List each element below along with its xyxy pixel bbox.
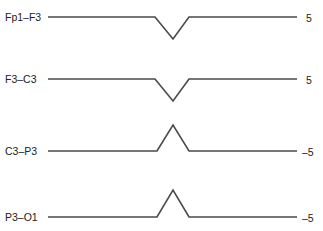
trace-f3-c3	[48, 79, 297, 101]
trace-c3-p3	[48, 125, 297, 151]
channel-label-fp1-f3: Fp1–F3	[5, 11, 41, 23]
channel-label-f3-c3: F3–C3	[5, 73, 37, 85]
channel-value-c3-p3: –5	[302, 146, 314, 158]
trace-p3-o1	[48, 190, 297, 217]
trace-fp1-f3	[48, 17, 297, 39]
eeg-traces	[0, 0, 323, 231]
channel-value-p3-o1: –5	[302, 212, 314, 224]
channel-label-p3-o1: P3–O1	[5, 211, 38, 223]
channel-value-fp1-f3: 5	[306, 12, 312, 24]
channel-label-c3-p3: C3–P3	[5, 145, 37, 157]
channel-value-f3-c3: 5	[306, 74, 312, 86]
